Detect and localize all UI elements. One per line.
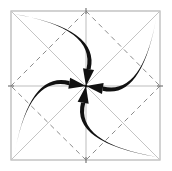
vortex-convergence-diagram [0,0,172,171]
center-convergence-point [84,84,87,87]
figure-root [0,0,172,171]
